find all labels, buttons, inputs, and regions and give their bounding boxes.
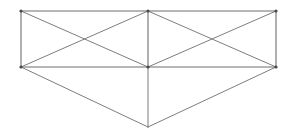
wireframe-figure bbox=[0, 0, 294, 139]
vertex-middle-center bbox=[146, 65, 149, 68]
vertex-top-right bbox=[274, 9, 277, 12]
vertex-top-middle bbox=[146, 9, 149, 12]
vertex-middle-right bbox=[274, 65, 277, 68]
figure-canvas bbox=[0, 0, 294, 139]
vertex-top-left bbox=[19, 9, 22, 12]
vertex-middle-left bbox=[19, 65, 22, 68]
